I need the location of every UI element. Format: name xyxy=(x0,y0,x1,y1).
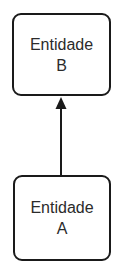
entity-b-label-line2: B xyxy=(56,55,67,76)
entity-b-node[interactable]: Entidade B xyxy=(12,13,111,96)
arrowhead-icon xyxy=(56,97,67,109)
entity-b-label-line1: Entidade xyxy=(30,34,93,55)
entity-a-label-line1: Entidade xyxy=(30,197,93,218)
entity-a-label-line2: A xyxy=(57,218,68,239)
entity-a-node[interactable]: Entidade A xyxy=(13,175,111,261)
